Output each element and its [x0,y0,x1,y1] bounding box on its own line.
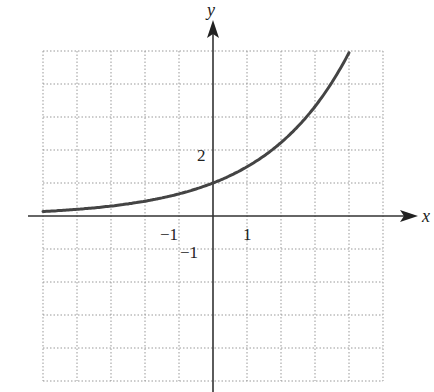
tick-label-y-neg1: −1 [180,243,198,262]
y-axis [207,20,219,392]
tick-label-x-1: 1 [243,225,252,244]
chart-canvas: x y −1 1 2 −1 [0,0,434,392]
tick-label-x-neg1: −1 [160,225,178,244]
y-axis-label: y [205,0,215,20]
x-axis-label: x [421,206,430,226]
x-axis [28,210,418,222]
tick-label-y-2: 2 [197,146,206,165]
exponential-curve [43,53,349,212]
